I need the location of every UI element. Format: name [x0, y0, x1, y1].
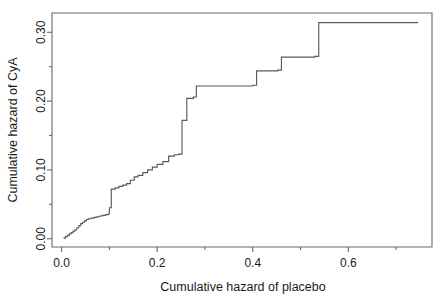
plot-canvas: 0.00.20.40.6 0.000.100.200.30 Cumulative… [0, 0, 444, 301]
x-tick-label: 0.2 [149, 256, 166, 270]
x-tick-label: 0.0 [53, 256, 70, 270]
step-plot-figure: 0.00.20.40.6 0.000.100.200.30 Cumulative… [0, 0, 444, 301]
y-tick-label: 0.20 [34, 89, 48, 113]
y-axis-title: Cumulative hazard of CyA [6, 57, 20, 203]
y-tick-label: 0.00 [34, 227, 48, 251]
x-tick-label: 0.6 [340, 256, 357, 270]
y-tick-label: 0.10 [34, 158, 48, 182]
x-axis-title: Cumulative hazard of placebo [160, 280, 325, 294]
y-tick-label: 0.30 [34, 20, 48, 44]
x-tick-label: 0.4 [244, 256, 261, 270]
